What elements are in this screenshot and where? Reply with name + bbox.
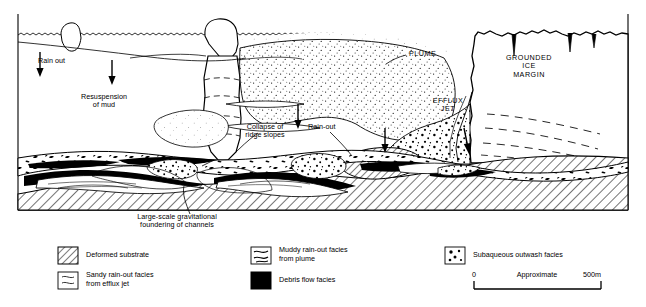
label-grounded-ice-margin: GROUNDED ICE MARGIN <box>497 54 561 79</box>
legend-label-debris-flow: Debris flow facies <box>279 276 335 285</box>
arrow-rainout-2 <box>108 60 115 85</box>
label-resuspension: Resuspension of mud <box>68 93 140 110</box>
legend-label-deformed-substrate: Deformed substrate <box>86 251 149 260</box>
legend-label-sandy-rain-out: Sandy rain-out facies from efflux jet <box>86 271 154 288</box>
label-rain-out-left: Rain out <box>38 57 65 65</box>
figure-canvas: Rain out Resuspension of mud Collapse of… <box>0 0 646 307</box>
scale-bar-center-label: Approximate <box>507 271 567 280</box>
label-foundering-of-channels: Large-scale gravitational foundering of … <box>118 213 236 230</box>
floating-icebergs <box>61 19 238 60</box>
scale-bar-left-label: 0 <box>472 271 476 280</box>
resuspension-cloud <box>154 110 228 147</box>
scale-bar <box>474 281 601 289</box>
legend-label-subaqueous-outwash: Subaqueous outwash facies <box>473 251 563 260</box>
scale-bar-right-label: 500m <box>583 271 601 280</box>
legend-label-muddy-rain-out: Muddy rain-out facies from plume <box>279 246 348 263</box>
grounded-ice-margin <box>469 30 628 164</box>
label-rain-out-mid: Rain-out <box>308 123 336 131</box>
label-collapse-ridge-slopes: Collapse of ridge slopes <box>230 123 300 140</box>
label-efflux-jet: EFFLUX JET <box>424 97 472 114</box>
label-plume: PLUME <box>409 50 436 58</box>
